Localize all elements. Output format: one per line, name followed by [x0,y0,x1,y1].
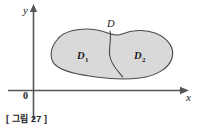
y-axis-label: y [22,4,28,16]
x-axis-label: x [185,91,191,103]
svg-text:1: 1 [85,56,89,64]
origin-label: 0 [23,90,28,101]
svg-text:D: D [133,50,142,61]
y-axis-arrow-icon [30,4,37,12]
svg-text:D: D [76,50,85,61]
figure-caption: [ 그림 27 ] [6,112,47,125]
region-d-shape [51,29,173,79]
label-region-d: D [106,18,115,29]
figure-container: D D 1 D 2 y x 0 [ 그림 27 ] [0,0,202,132]
svg-text:2: 2 [142,56,146,64]
